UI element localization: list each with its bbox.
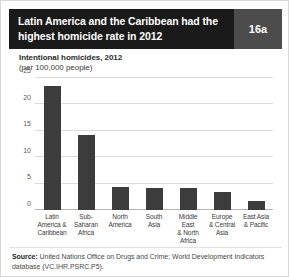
bar bbox=[146, 188, 163, 210]
bar-slot bbox=[35, 78, 69, 210]
x-axis-category-line: Middle East bbox=[172, 213, 204, 229]
bar-series bbox=[35, 78, 273, 210]
bar bbox=[180, 188, 197, 210]
x-axis-category-line: Sub-Saharan bbox=[70, 213, 102, 229]
bar bbox=[248, 201, 265, 210]
bar-slot bbox=[103, 78, 137, 210]
x-axis-category-line: Europe bbox=[206, 213, 238, 221]
bar-slot bbox=[137, 78, 171, 210]
plot-area: 0510152025 bbox=[35, 78, 273, 210]
x-axis-category-line: North bbox=[104, 213, 136, 221]
x-axis-category-line: & North bbox=[172, 229, 204, 237]
x-axis-category-label: Europe& CentralAsia bbox=[205, 213, 239, 245]
x-axis-category-line: Asia bbox=[206, 229, 238, 237]
source-label: Source: bbox=[12, 253, 38, 260]
x-axis-category-label: LatinAmerica &Caribbean bbox=[35, 213, 69, 245]
x-axis-category-line: & Pacific bbox=[240, 221, 272, 229]
x-axis-category-line: East Asia bbox=[240, 213, 272, 221]
x-axis-category-line: Latin bbox=[36, 213, 68, 221]
bar bbox=[214, 192, 231, 210]
x-axis-category-label: NorthAmerica bbox=[103, 213, 137, 245]
y-axis-tick-label: 15 bbox=[23, 120, 31, 127]
x-axis-category-label: East Asia& Pacific bbox=[239, 213, 273, 245]
x-axis-category-line: America bbox=[104, 221, 136, 229]
bar bbox=[44, 86, 61, 210]
x-axis-category-line: Africa bbox=[172, 237, 204, 245]
x-axis-category-label: Middle East& NorthAfrica bbox=[171, 213, 205, 245]
bar-slot bbox=[171, 78, 205, 210]
bar bbox=[112, 187, 129, 210]
bar-slot bbox=[205, 78, 239, 210]
figure-number-badge: 16a bbox=[234, 9, 282, 49]
x-axis-category-line: Asia bbox=[138, 221, 170, 229]
source-text: United Nations Office on Drugs and Crime… bbox=[12, 253, 264, 270]
x-axis-category-line: America & bbox=[36, 221, 68, 229]
x-axis-category-line: South bbox=[138, 213, 170, 221]
chart-subtitle-line1: Intentional homicides, 2012 bbox=[19, 53, 122, 62]
bar-slot bbox=[69, 78, 103, 210]
y-axis-tick-label: 20 bbox=[23, 93, 31, 100]
page-title: Latin America and the Caribbean had the … bbox=[18, 14, 233, 43]
bar-slot bbox=[239, 78, 273, 210]
source-note: Source: United Nations Office on Drugs a… bbox=[12, 252, 280, 271]
y-axis-tick-label: 10 bbox=[23, 146, 31, 153]
x-axis-category-line: Caribbean bbox=[36, 229, 68, 237]
bar bbox=[78, 135, 95, 211]
figure-number-text: 16a bbox=[249, 23, 267, 35]
x-axis-labels: LatinAmerica &CaribbeanSub-SaharanAfrica… bbox=[35, 213, 273, 245]
footer-divider bbox=[9, 247, 282, 248]
x-axis-category-line: Africa bbox=[70, 229, 102, 237]
x-axis-category-line: & Central bbox=[206, 221, 238, 229]
y-axis-tick-label: 5 bbox=[27, 173, 31, 180]
figure-container: Latin America and the Caribbean had the … bbox=[0, 0, 289, 277]
x-axis-category-label: SouthAsia bbox=[137, 213, 171, 245]
x-axis-category-label: Sub-SaharanAfrica bbox=[69, 213, 103, 245]
y-axis-tick-label: 25 bbox=[23, 67, 31, 74]
y-axis-tick-label: 0 bbox=[27, 200, 31, 207]
title-bar: Latin America and the Caribbean had the … bbox=[9, 9, 282, 49]
